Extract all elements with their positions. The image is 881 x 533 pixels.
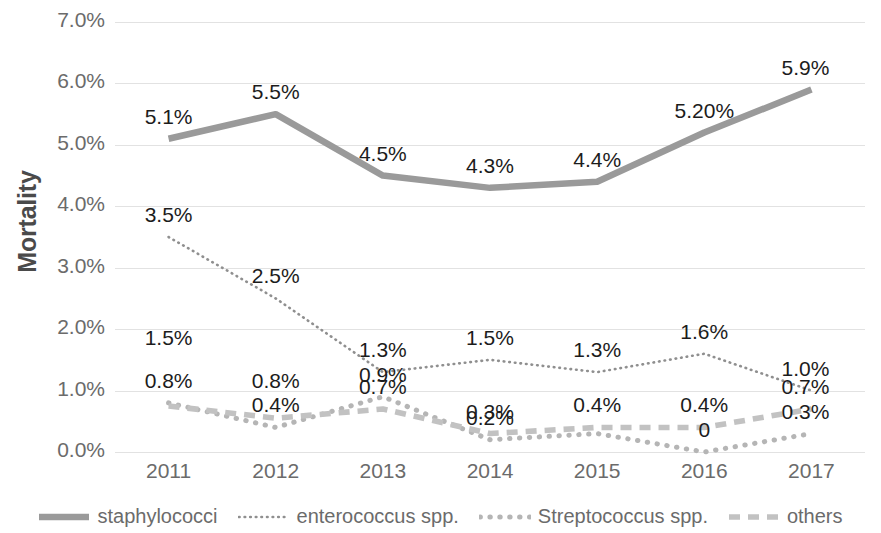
data-label: 1.6%	[680, 320, 728, 344]
data-label: 1.3%	[573, 338, 621, 362]
data-label: 0.4%	[573, 393, 621, 417]
chart-legend: staphylococcienterococcus spp.Streptococ…	[0, 500, 881, 533]
data-label: 4.4%	[573, 148, 621, 172]
data-label: 0	[698, 418, 710, 442]
chart-container: Mortality 0.0%1.0%2.0%3.0%4.0%5.0%6.0%7.…	[0, 0, 881, 533]
legend-item[interactable]: staphylococci	[38, 505, 217, 528]
y-axis-tick-label: 4.0%	[33, 192, 105, 216]
legend-item[interactable]: Streptococcus spp.	[479, 505, 708, 528]
legend-label: enterococcus spp.	[297, 505, 459, 528]
data-label: 0.4%	[680, 393, 728, 417]
x-axis-tick-label: 2017	[756, 459, 866, 483]
legend-item[interactable]: enterococcus spp.	[238, 505, 459, 528]
data-label: 2.5%	[252, 264, 300, 288]
series-line-enterococcus-spp	[169, 237, 812, 391]
legend-label: others	[787, 505, 843, 528]
dashed-line-marker	[728, 510, 780, 524]
solid-line-marker	[38, 510, 90, 524]
y-axis-tick-label: 6.0%	[33, 69, 105, 93]
y-axis-tick-label: 5.0%	[33, 131, 105, 155]
legend-item[interactable]: others	[728, 505, 843, 528]
x-axis-tick-label: 2011	[114, 459, 224, 483]
data-label: 1.5%	[466, 326, 514, 350]
data-label: 3.5%	[145, 203, 193, 227]
data-label: 0.2%	[466, 406, 514, 430]
x-axis-tick-label: 2016	[649, 459, 759, 483]
y-axis-tick-label: 1.0%	[33, 377, 105, 401]
data-label: 0.3%	[781, 400, 829, 424]
y-axis-tick-label: 3.0%	[33, 254, 105, 278]
gridline	[115, 452, 865, 453]
fine-dotted-line-marker	[238, 510, 290, 524]
y-axis-tick-label: 0.0%	[33, 438, 105, 462]
data-label: 5.9%	[781, 56, 829, 80]
data-label: 1.3%	[359, 338, 407, 362]
dotted-line-marker	[479, 510, 531, 524]
x-axis-tick-label: 2013	[328, 459, 438, 483]
data-label: 1.5%	[145, 326, 193, 350]
data-label: 0.7%	[359, 375, 407, 399]
data-label: 5.1%	[145, 105, 193, 129]
data-label: 4.5%	[359, 142, 407, 166]
data-label: 5.5%	[252, 80, 300, 104]
data-label: 5.20%	[675, 99, 735, 123]
x-axis-tick-labels: 2011201220132014201520162017	[115, 459, 865, 493]
legend-label: staphylococci	[97, 505, 217, 528]
data-label: 0.7%	[781, 375, 829, 399]
y-axis-tick-label: 7.0%	[33, 8, 105, 32]
y-axis-tick-label: 2.0%	[33, 315, 105, 339]
legend-label: Streptococcus spp.	[538, 505, 708, 528]
data-label: 4.3%	[466, 154, 514, 178]
x-axis-tick-label: 2015	[542, 459, 652, 483]
series-lines	[115, 22, 865, 452]
data-label: 0.8%	[145, 369, 193, 393]
x-axis-tick-label: 2014	[435, 459, 545, 483]
data-label: 0.4%	[252, 393, 300, 417]
plot-area: 5.1%5.5%4.5%4.3%4.4%5.20%5.9%3.5%2.5%1.3…	[115, 22, 865, 452]
x-axis-tick-label: 2012	[221, 459, 331, 483]
data-label: 0.8%	[252, 369, 300, 393]
y-axis-tick-labels: 0.0%1.0%2.0%3.0%4.0%5.0%6.0%7.0%	[33, 22, 105, 452]
